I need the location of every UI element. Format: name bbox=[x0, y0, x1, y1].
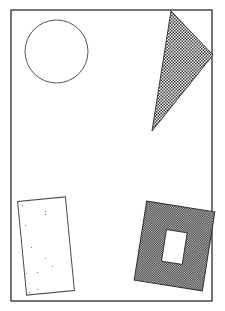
shape-dark-square-with-hole bbox=[134, 201, 215, 291]
shape-speckled-rectangle bbox=[18, 197, 75, 295]
shape-circle bbox=[25, 20, 88, 83]
shape-canvas bbox=[0, 0, 225, 311]
shape-triangle bbox=[152, 11, 213, 131]
figure-canvas: Geometric shapes figure bbox=[0, 0, 225, 311]
